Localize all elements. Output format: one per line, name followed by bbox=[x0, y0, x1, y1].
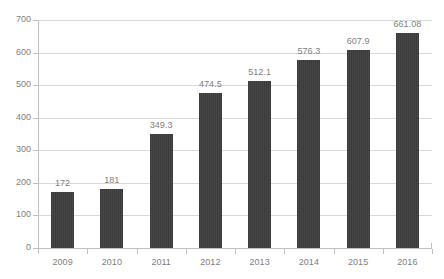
x-axis-category-label: 2016 bbox=[382, 258, 432, 267]
x-axis-category-label: 2009 bbox=[38, 258, 88, 267]
x-axis-tick bbox=[432, 249, 433, 254]
y-axis-line bbox=[38, 20, 39, 249]
y-axis-tick-label-wrap: 700 bbox=[0, 15, 31, 26]
bar bbox=[100, 189, 123, 248]
x-axis-tick bbox=[38, 249, 39, 254]
y-axis-tick-label: 100 bbox=[3, 210, 31, 219]
y-axis-tick-label: 0 bbox=[3, 243, 31, 252]
bar-value-label: 349.3 bbox=[136, 121, 186, 130]
bar-value-label: 661.08 bbox=[382, 20, 432, 29]
x-axis-tick bbox=[235, 249, 236, 254]
bar-value-label: 607.9 bbox=[333, 37, 383, 46]
gridline bbox=[38, 20, 432, 21]
bar-value-label: 172 bbox=[38, 179, 88, 188]
bar-chart: 0100200300400500600700 20092010201120122… bbox=[0, 0, 444, 279]
bar bbox=[297, 60, 320, 248]
x-axis-tick bbox=[137, 249, 138, 254]
y-axis-tick-label-wrap: 300 bbox=[0, 145, 31, 156]
bar bbox=[347, 50, 370, 248]
x-axis-tick bbox=[383, 249, 384, 254]
bar bbox=[150, 134, 173, 248]
gridline bbox=[38, 150, 432, 151]
gridline bbox=[38, 215, 432, 216]
x-axis-category-label: 2012 bbox=[185, 258, 235, 267]
gridline bbox=[38, 53, 432, 54]
bar-value-label: 512.1 bbox=[235, 68, 285, 77]
y-axis-tick-label: 500 bbox=[3, 80, 31, 89]
y-axis-tick-label: 400 bbox=[3, 113, 31, 122]
x-axis-category-label: 2015 bbox=[333, 258, 383, 267]
y-axis-tick-label-wrap: 100 bbox=[0, 210, 31, 221]
y-axis-tick-label-wrap: 400 bbox=[0, 113, 31, 124]
y-axis-tick-label: 300 bbox=[3, 145, 31, 154]
bar bbox=[199, 93, 222, 248]
x-axis-category-label: 2013 bbox=[235, 258, 285, 267]
bar-value-label: 576.3 bbox=[284, 47, 334, 56]
y-axis-tick-label: 600 bbox=[3, 48, 31, 57]
x-axis-category-label: 2014 bbox=[284, 258, 334, 267]
y-axis-tick-label: 200 bbox=[3, 178, 31, 187]
bar bbox=[248, 81, 271, 248]
bar-value-label: 474.5 bbox=[185, 80, 235, 89]
y-axis-tick-label-wrap: 200 bbox=[0, 178, 31, 189]
bar-value-label: 181 bbox=[87, 176, 137, 185]
gridline bbox=[38, 118, 432, 119]
x-axis-category-label: 2010 bbox=[87, 258, 137, 267]
x-axis-category-label: 2011 bbox=[136, 258, 186, 267]
bar bbox=[51, 192, 74, 248]
y-axis-tick-label: 700 bbox=[3, 15, 31, 24]
y-axis-tick-label-wrap: 600 bbox=[0, 48, 31, 59]
x-axis-tick bbox=[87, 249, 88, 254]
x-axis-tick bbox=[186, 249, 187, 254]
x-axis-tick bbox=[284, 249, 285, 254]
bar bbox=[396, 33, 419, 248]
plot-area bbox=[38, 20, 432, 248]
x-axis-tick bbox=[334, 249, 335, 254]
y-axis-tick-label-wrap: 0 bbox=[0, 243, 31, 254]
y-axis-tick-label-wrap: 500 bbox=[0, 80, 31, 91]
